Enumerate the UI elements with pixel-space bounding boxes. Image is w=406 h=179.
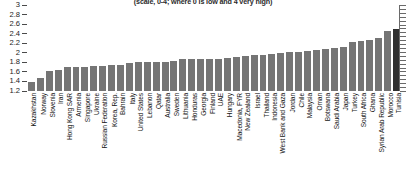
plot-area [27,5,401,91]
bar-slot [330,5,339,91]
right-axis-tick [400,36,406,37]
bar[interactable] [233,57,240,91]
bar-slot [89,5,98,91]
bar[interactable] [135,62,142,91]
bar[interactable] [46,71,53,91]
right-axis-tick [400,48,406,49]
bar[interactable] [108,65,115,91]
bar[interactable] [55,70,62,91]
bar[interactable] [117,65,124,91]
bar[interactable] [162,62,169,91]
bar[interactable] [197,59,204,91]
x-axis-label-slot: Australia [161,92,170,179]
right-axis-tick [400,71,406,72]
x-axis-label-slot: Iran [54,92,63,179]
x-axis-label-slot: UAE [214,92,223,179]
bar[interactable] [224,58,231,91]
bar[interactable] [304,51,311,91]
right-axis-tick [400,21,406,22]
bar[interactable] [73,67,80,91]
bar[interactable] [64,67,71,91]
bar-slot [250,5,259,91]
bar[interactable] [37,78,44,91]
bar[interactable] [322,49,329,91]
right-axis-tick [400,32,406,33]
right-axis-tick [400,5,406,6]
x-axis-label-slot: Kazakhstan [27,92,36,179]
bar[interactable] [90,66,97,91]
bar[interactable] [99,66,106,91]
right-axis-tick [400,28,406,29]
bar[interactable] [277,53,284,91]
x-axis-label-slot: Chile [294,92,303,179]
y-axis-tick-label: 2.4 [9,30,20,38]
x-axis-label-slot: Macedonia, FYR [232,92,241,179]
bar[interactable] [153,62,160,91]
right-axis-tick [400,60,406,61]
bar[interactable] [375,38,382,92]
bar[interactable] [268,54,275,91]
y-axis-tick: 1.8 [9,58,27,66]
x-axis-label-slot: Israel [250,92,259,179]
bar-slot [267,5,276,91]
y-axis-tick: 1.2 [9,87,27,95]
right-axis-tick [400,17,406,18]
y-axis-tick: 2.2 [9,39,27,47]
y-axis-tick: 1.4 [9,77,27,85]
bar-slot [187,5,196,91]
x-axis-label-slot: Turkey [348,92,357,179]
bar[interactable] [242,56,249,91]
bar-slot [80,5,89,91]
bar[interactable] [126,63,133,91]
right-axis-tick [400,68,406,69]
bar[interactable] [349,42,356,91]
bar[interactable] [340,47,347,91]
bar[interactable] [295,52,302,91]
bar[interactable] [251,55,258,91]
y-axis-tick: 1.6 [9,68,27,76]
bar-slot [178,5,187,91]
bar[interactable] [366,40,373,91]
bar-slot [125,5,134,91]
x-axis-label-slot: Honduras [187,92,196,179]
bar[interactable] [170,61,177,91]
bar-slot [294,5,303,91]
bar[interactable] [331,48,338,91]
y-axis-tick-label: 2.2 [9,39,20,47]
bar[interactable] [313,50,320,91]
bar[interactable] [144,62,151,91]
bar[interactable] [384,31,391,91]
x-axis-label-slot: Jordan [285,92,294,179]
bar[interactable] [28,82,35,91]
bar[interactable] [358,41,365,91]
x-axis-label-slot: Russian Federation [98,92,107,179]
bar[interactable] [206,59,213,91]
y-axis-tick-label: 2.8 [9,11,20,19]
bar-slot [205,5,214,91]
bar-slot [27,5,36,91]
y-axis-tick-label: 1.6 [9,68,20,76]
x-axis-label-slot: Lithuania [178,92,187,179]
right-axis-tick [400,87,406,88]
bar[interactable] [179,59,186,91]
bar-slot [152,5,161,91]
bar[interactable] [215,59,222,91]
x-axis-label-slot: Syrian Arab Republic [374,92,383,179]
right-axis-tick [400,40,406,41]
x-axis-label-slot: Hong Kong SAR [63,92,72,179]
x-axis-label-slot: United States [134,92,143,179]
bar[interactable] [286,52,293,91]
x-axis-label-slot: Italy [125,92,134,179]
x-axis-label-slot: Qatar [152,92,161,179]
bar[interactable] [260,55,267,91]
right-axis-tick [400,75,406,76]
bar-slot [143,5,152,91]
bar-slot [134,5,143,91]
y-axis-tick: 2 [16,49,27,57]
bar[interactable] [81,67,88,91]
y-axis-tick: 2.4 [9,30,27,38]
bar-slot [348,5,357,91]
right-axis-tick [400,83,406,84]
bar[interactable] [188,59,195,91]
bar-slot [223,5,232,91]
